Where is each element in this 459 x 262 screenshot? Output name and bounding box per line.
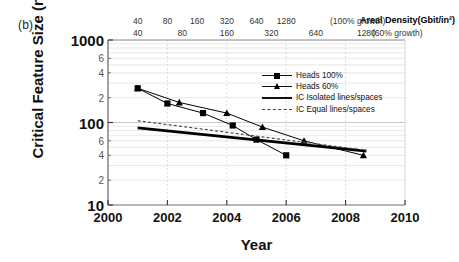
legend-item-heads-100: Heads 100% (262, 70, 382, 81)
legend-label-heads-100: Heads 100% (296, 70, 343, 81)
legend-item-ic-equal: IC Equal lines/spaces (262, 104, 382, 115)
plot-area (0, 0, 459, 262)
legend-label-heads-60: Heads 60% (296, 81, 338, 92)
legend-label-ic-isolated: IC Isolated lines/spaces (296, 92, 382, 103)
legend-item-ic-isolated: IC Isolated lines/spaces (262, 92, 382, 103)
chart-legend: Heads 100% Heads 60% IC Isolated lines/s… (262, 70, 382, 115)
figure-panel-b: (b) Critical Feature Size (nm) Year Area… (0, 0, 459, 262)
legend-marker-square-icon (262, 70, 292, 81)
legend-marker-triangle-icon (262, 81, 292, 92)
legend-label-ic-equal: IC Equal lines/spaces (296, 104, 375, 115)
legend-line-thick-icon (262, 92, 292, 103)
legend-line-dashed-icon (262, 104, 292, 115)
legend-item-heads-60: Heads 60% (262, 81, 382, 92)
